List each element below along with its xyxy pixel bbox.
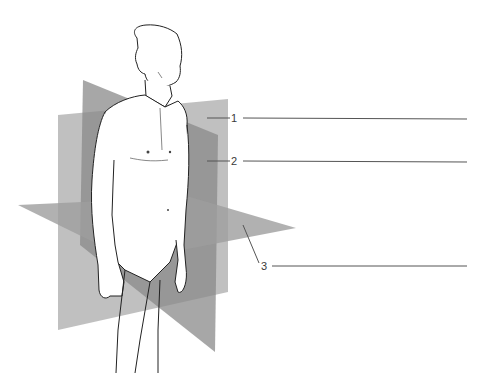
human-figure bbox=[91, 25, 188, 373]
label-3: 3 bbox=[261, 261, 267, 272]
answer-line-1 bbox=[243, 118, 467, 119]
body-planes-diagram bbox=[0, 0, 483, 373]
leader-lines bbox=[207, 118, 467, 266]
label-2: 2 bbox=[231, 156, 237, 167]
answer-line-2 bbox=[243, 161, 467, 162]
label-1: 1 bbox=[231, 113, 237, 124]
